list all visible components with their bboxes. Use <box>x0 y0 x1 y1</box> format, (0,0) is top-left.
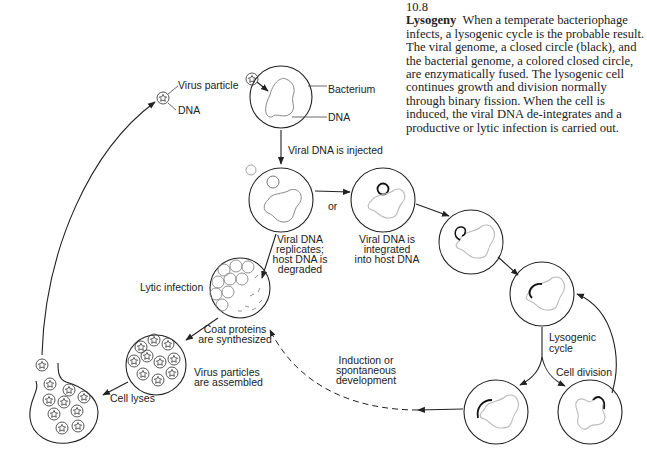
virus-assembled-label: Virus particles are assembled <box>194 366 263 388</box>
virus-particle-label: Virus particle <box>178 79 239 91</box>
daughter-cell-right <box>558 380 622 444</box>
empty-phage-coat <box>246 165 256 175</box>
integrated-label: Viral DNA is integrated into host DNA <box>355 233 420 265</box>
bacterium-label: Bacterium <box>328 83 376 95</box>
injected-label: Viral DNA is injected <box>288 144 383 156</box>
replicates-label: Viral DNA replicates; host DNA is degrad… <box>273 233 328 275</box>
lysogeny-diagram: Bacterium DNA Virus particle DNA Viral D… <box>0 0 647 467</box>
daughter-cell-left <box>464 380 528 444</box>
lytic-infection-cell <box>210 258 270 318</box>
induction-label: Induction or spontaneous development <box>336 354 396 386</box>
bacterium-dna-label: DNA <box>328 111 350 123</box>
viral-circle-cell <box>351 168 415 232</box>
svg-text:are synthesized: are synthesized <box>198 333 272 345</box>
svg-text:development: development <box>336 374 396 386</box>
lysed-cell <box>30 359 98 443</box>
bacterium-cell <box>250 66 312 128</box>
infected-cell <box>249 168 313 232</box>
svg-text:into host DNA: into host DNA <box>355 253 420 265</box>
integrating-cell <box>439 210 503 274</box>
assembled-virus-cell <box>126 334 186 395</box>
or-label: or <box>328 200 338 212</box>
svg-text:degraded: degraded <box>278 263 323 275</box>
cell-division-label: Cell division <box>556 366 612 378</box>
cell-lyses-label: Cell lyses <box>110 392 155 404</box>
virus-particle <box>157 92 169 104</box>
virus-dna-label: DNA <box>178 104 200 116</box>
prophage-cell <box>510 262 574 326</box>
coat-proteins-label: Coat proteins are synthesized <box>198 323 272 345</box>
svg-text:are assembled: are assembled <box>194 376 263 388</box>
lysogenic-cycle-label: Lysogenic cycle <box>549 331 596 354</box>
svg-text:cycle: cycle <box>549 342 573 354</box>
lytic-infection-label: Lytic infection <box>140 281 203 293</box>
